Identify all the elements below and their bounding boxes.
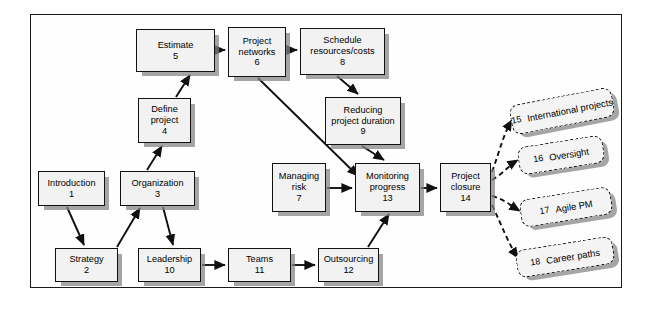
node-number: 14 <box>460 193 470 204</box>
edge-organization-to-leadership <box>163 207 173 245</box>
edge-define-project-to-estimate <box>176 75 190 97</box>
node-label: Project networks <box>239 36 276 58</box>
node-project-networks[interactable]: Project networks 6 <box>228 27 286 77</box>
node-label: Teams <box>246 254 273 265</box>
node-reducing-project-duration[interactable]: Reducing project duration 9 <box>325 97 401 145</box>
node-leadership[interactable]: Leadership 10 <box>138 248 201 282</box>
node-label: Introduction <box>47 178 95 189</box>
node-label: Managing risk <box>279 171 319 193</box>
node-label: Define project <box>151 104 179 126</box>
node-label: Strategy <box>69 254 103 265</box>
node-number: 16 <box>532 153 543 164</box>
node-label: Estimate <box>158 40 194 51</box>
edge-reducing-to-monitoring <box>362 146 384 160</box>
edge-introduction-to-strategy <box>67 207 84 245</box>
diagram-canvas: Estimate 5 Project networks 6 Schedule r… <box>0 0 652 309</box>
node-number: 13 <box>382 193 392 204</box>
edge-organization-to-define-project <box>147 146 162 170</box>
node-number: 5 <box>173 51 178 62</box>
node-label: Organization <box>131 178 183 189</box>
node-number: 10 <box>164 265 174 276</box>
node-teams[interactable]: Teams 11 <box>228 248 291 282</box>
node-number: 4 <box>162 126 167 137</box>
node-strategy[interactable]: Strategy 2 <box>55 248 118 282</box>
node-number: 3 <box>155 189 160 200</box>
node-label: Agile PM <box>555 197 594 214</box>
node-number: 7 <box>296 193 301 204</box>
node-number: 18 <box>530 256 541 267</box>
node-label: Reducing project duration <box>331 105 394 127</box>
node-number: 2 <box>84 265 89 276</box>
edge-project-closure-to-international-projects <box>492 120 512 172</box>
node-number: 1 <box>69 189 74 200</box>
node-label: Monitoring progress <box>366 171 409 193</box>
node-number: 17 <box>539 205 550 216</box>
edge-project-closure-to-agile-pm <box>492 196 520 211</box>
node-label: Project closure <box>451 171 481 193</box>
node-label: Outsourcing <box>324 254 374 265</box>
edge-schedule-to-reducing <box>337 76 358 94</box>
node-define-project[interactable]: Define project 4 <box>138 98 191 143</box>
node-managing-risk[interactable]: Managing risk 7 <box>272 163 326 212</box>
node-label: Schedule resources/costs <box>310 35 374 57</box>
node-label: Leadership <box>147 254 192 265</box>
node-schedule-resources-costs[interactable]: Schedule resources/costs 8 <box>300 28 385 75</box>
node-project-closure[interactable]: Project closure 14 <box>440 163 491 212</box>
node-number: 6 <box>254 57 259 68</box>
node-number: 9 <box>360 126 365 137</box>
node-number: 15 <box>510 114 522 126</box>
edge-outsourcing-to-monitoring <box>368 214 389 247</box>
node-number: 12 <box>343 265 353 276</box>
node-label: Oversight <box>548 145 589 162</box>
node-number: 11 <box>255 265 265 276</box>
node-organization[interactable]: Organization 3 <box>120 171 195 206</box>
edge-project-closure-to-career-paths <box>492 205 518 258</box>
edge-strategy-to-organization <box>117 208 140 247</box>
node-estimate[interactable]: Estimate 5 <box>136 29 215 72</box>
node-introduction[interactable]: Introduction 1 <box>38 171 105 206</box>
node-number: 8 <box>340 57 345 68</box>
node-monitoring-progress[interactable]: Monitoring progress 13 <box>355 163 420 212</box>
node-label: Career paths <box>545 246 600 265</box>
node-outsourcing[interactable]: Outsourcing 12 <box>318 248 379 282</box>
